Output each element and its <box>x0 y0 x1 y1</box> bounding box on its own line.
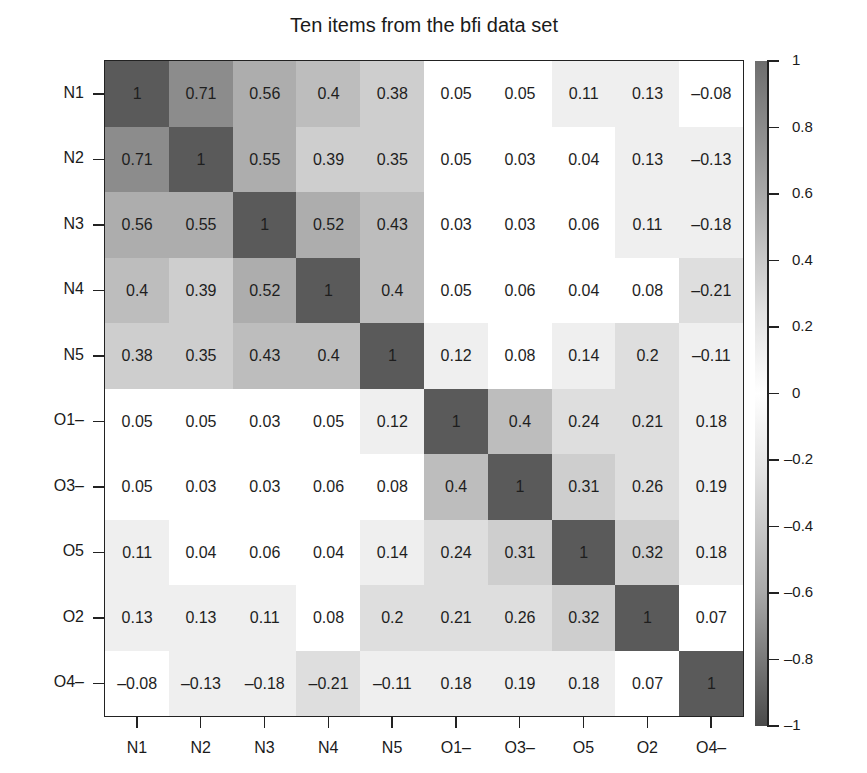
heatmap-cell: 0.32 <box>615 520 679 586</box>
heatmap-cell: 0.21 <box>424 585 488 651</box>
heatmap-cell: 0.12 <box>424 323 488 389</box>
y-tick <box>93 290 104 292</box>
colorbar-tick-label: 1 <box>792 51 800 68</box>
x-tick <box>328 717 330 728</box>
heatmap-cell: 0.55 <box>233 127 297 193</box>
colorbar-tick-label: –1 <box>784 716 801 733</box>
heatmap-cell: 0.03 <box>424 192 488 258</box>
heatmap-cell: 0.14 <box>360 520 424 586</box>
heatmap-cell: 0.26 <box>488 585 552 651</box>
x-tick <box>583 717 585 728</box>
heatmap-cell: 0.31 <box>552 454 616 520</box>
y-tick <box>93 486 104 488</box>
y-tick-label: N3 <box>64 215 84 233</box>
heatmap-cell: 0.32 <box>552 585 616 651</box>
heatmap-cell: –0.08 <box>679 61 743 127</box>
y-tick <box>93 93 104 95</box>
colorbar-tick-label: 0.2 <box>792 317 813 334</box>
heatmap-cell: –0.18 <box>233 651 297 717</box>
colorbar-tick-label: 0.4 <box>792 251 813 268</box>
y-tick <box>93 224 104 226</box>
heatmap-cell: 1 <box>360 323 424 389</box>
heatmap-cell: 0.04 <box>296 520 360 586</box>
x-tick <box>200 717 202 728</box>
heatmap-cell: 0.52 <box>296 192 360 258</box>
heatmap-cell: 0.39 <box>169 258 233 324</box>
heatmap-cell: –0.11 <box>360 651 424 717</box>
x-tick <box>519 717 521 728</box>
y-tick-label: O4– <box>54 673 84 691</box>
colorbar-tick-label: –0.6 <box>784 583 813 600</box>
heatmap-cell: 0.06 <box>488 258 552 324</box>
heatmap-cell: 0.13 <box>105 585 169 651</box>
heatmap-cell: 0.52 <box>233 258 297 324</box>
y-tick-label: N2 <box>64 149 84 167</box>
heatmap-cell: 0.11 <box>615 192 679 258</box>
colorbar-tick-label: 0 <box>792 384 800 401</box>
colorbar-tick <box>767 326 779 328</box>
y-tick-label: O5 <box>63 542 84 560</box>
y-tick <box>93 552 104 554</box>
heatmap-cell: –0.13 <box>679 127 743 193</box>
heatmap-panel: 10.710.560.40.380.050.050.110.13–0.080.7… <box>105 61 743 716</box>
heatmap-cell: 0.4 <box>424 454 488 520</box>
heatmap-cell: 0.04 <box>552 258 616 324</box>
x-tick-label: O4– <box>681 739 741 757</box>
heatmap-cell: 0.2 <box>360 585 424 651</box>
heatmap-cell: 0.06 <box>552 192 616 258</box>
heatmap-cell: 0.43 <box>360 192 424 258</box>
heatmap-cell: 1 <box>296 258 360 324</box>
y-tick <box>93 421 104 423</box>
heatmap-cell: 0.06 <box>233 520 297 586</box>
y-tick <box>93 617 104 619</box>
heatmap-cell: 0.13 <box>615 61 679 127</box>
heatmap-cell: 0.18 <box>424 651 488 717</box>
x-tick-label: O5 <box>554 739 614 757</box>
heatmap-cell: 1 <box>105 61 169 127</box>
heatmap-cell: –0.11 <box>679 323 743 389</box>
heatmap-cell: 0.4 <box>296 323 360 389</box>
y-tick-label: O3– <box>54 477 84 495</box>
x-tick-label: O2 <box>617 739 677 757</box>
heatmap-cell: –0.21 <box>679 258 743 324</box>
heatmap-cell: 0.35 <box>360 127 424 193</box>
heatmap-cell: 0.12 <box>360 389 424 455</box>
x-tick <box>710 717 712 728</box>
heatmap-cell: 0.38 <box>105 323 169 389</box>
colorbar-tick-label: –0.8 <box>784 650 813 667</box>
heatmap-cell: 0.03 <box>488 192 552 258</box>
heatmap-cell: 0.07 <box>679 585 743 651</box>
y-tick-label: N5 <box>64 346 84 364</box>
heatmap-cell: 0.19 <box>679 454 743 520</box>
heatmap-cell: 0.07 <box>615 651 679 717</box>
heatmap-cell: –0.21 <box>296 651 360 717</box>
heatmap-cell: 0.08 <box>296 585 360 651</box>
heatmap-cell: 0.05 <box>169 389 233 455</box>
x-tick-label: O3– <box>490 739 550 757</box>
heatmap-cell: 0.4 <box>296 61 360 127</box>
heatmap-cell: 0.13 <box>615 127 679 193</box>
heatmap-cell: 0.03 <box>233 389 297 455</box>
heatmap-cell: 0.11 <box>233 585 297 651</box>
heatmap-cell: 1 <box>679 651 743 717</box>
heatmap-cell: 0.26 <box>615 454 679 520</box>
heatmap-cell: 0.71 <box>169 61 233 127</box>
heatmap-cell: 0.43 <box>233 323 297 389</box>
heatmap-cell: 0.4 <box>488 389 552 455</box>
heatmap-cell: 0.04 <box>552 127 616 193</box>
chart-title: Ten items from the bfi data set <box>105 14 743 37</box>
heatmap-cell: –0.13 <box>169 651 233 717</box>
heatmap-cell: 0.05 <box>105 389 169 455</box>
y-tick-label: O1– <box>54 411 84 429</box>
heatmap-cell: 0.35 <box>169 323 233 389</box>
colorbar-tick <box>767 659 779 661</box>
heatmap-cell: 0.05 <box>296 389 360 455</box>
heatmap-cell: 0.03 <box>169 454 233 520</box>
heatmap-cell: 0.03 <box>233 454 297 520</box>
y-tick <box>93 159 104 161</box>
x-tick-label: O1– <box>426 739 486 757</box>
colorbar-tick <box>767 526 779 528</box>
heatmap-cell: 0.2 <box>615 323 679 389</box>
colorbar-tick <box>767 459 779 461</box>
heatmap-cell: 0.71 <box>105 127 169 193</box>
